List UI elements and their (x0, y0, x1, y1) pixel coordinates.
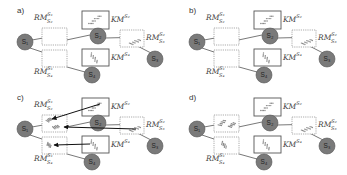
scatter-point (91, 110, 92, 111)
rm-box-s1-s2 (42, 28, 67, 45)
node-label: S₂ (267, 119, 274, 126)
scatter-point (306, 129, 307, 130)
scatter-point (271, 102, 272, 103)
scatter-point (94, 59, 95, 60)
node-label: S₂ (267, 32, 274, 39)
scatter-point (268, 62, 269, 63)
scatter-point (94, 20, 95, 21)
scatter-point (97, 16, 98, 17)
scatter-point (93, 107, 94, 108)
scatter-point (266, 58, 267, 59)
node-label: S₂ (95, 32, 102, 39)
scatter-point (221, 125, 222, 126)
scatter-point (266, 147, 267, 148)
scatter-point (96, 148, 97, 149)
scatter-point (134, 129, 135, 130)
scatter-point (266, 60, 267, 61)
scatter-point (306, 42, 307, 43)
edge-rm-s4 (239, 154, 257, 159)
scatter-point (91, 139, 92, 140)
edge-rm-s4 (67, 67, 85, 72)
scatter-point (100, 15, 101, 16)
km-s2-label: KMS₂ (110, 100, 130, 111)
edge-s1-rm-s2 (204, 125, 214, 127)
scatter-point (91, 52, 92, 53)
scatter-point (132, 131, 133, 132)
scatter-point (260, 23, 261, 24)
node-s4: S₄ (256, 67, 272, 83)
km-box-s2 (82, 11, 109, 29)
scatter-point (91, 142, 92, 143)
panel-label: d) (189, 93, 196, 102)
scatter-point (263, 23, 264, 24)
scatter-point (92, 110, 93, 111)
scatter-point (310, 128, 311, 129)
scatter-point (268, 147, 269, 148)
rm-s1-s4-label: RMS₁S₄ (205, 65, 225, 78)
scatter-point (304, 131, 305, 132)
panel-label: b) (189, 6, 196, 15)
scatter-point (96, 62, 97, 63)
scatter-point (266, 59, 267, 60)
node-s4: S₄ (256, 154, 272, 170)
km-s2-label: KMS₂ (282, 100, 302, 111)
rm-s1-s2-label: RMS₁S₂ (205, 11, 225, 24)
scatter-point (268, 60, 269, 61)
scatter-point (92, 145, 93, 146)
scatter-point (97, 18, 98, 19)
scatter-point (54, 128, 55, 129)
scatter-point (264, 107, 265, 108)
scatter-point (264, 143, 265, 144)
edge-s1-rm-s4 (30, 48, 42, 52)
scatter-point (97, 103, 98, 104)
rm-box-s1-s4 (214, 50, 239, 67)
node-label: S₁ (194, 38, 201, 45)
scatter-point (94, 145, 95, 146)
scatter-point (92, 23, 93, 24)
rm-s1-s4-label: RMS₁S₄ (33, 152, 53, 165)
scatter-point (270, 18, 271, 19)
scatter-point (272, 102, 273, 103)
scatter-point (267, 144, 268, 145)
edge-s1-rm-s4 (202, 135, 214, 139)
scatter-point (93, 20, 94, 21)
node-s3: S₃ (147, 138, 163, 154)
km-box-s2 (82, 98, 109, 116)
scatter-point (140, 40, 141, 41)
scatter-point (91, 53, 92, 54)
scatter-point (266, 18, 267, 19)
scatter-point (138, 41, 139, 42)
scatter-point (267, 105, 268, 106)
scatter-point (224, 147, 225, 148)
scatter-point (55, 127, 56, 128)
panel-c: c)S₁S₂S₃S₄KMS₂KMS₄RMS₁S₂RMS₁S₄RMS₂S₃ (17, 93, 165, 170)
edge-rm-s4 (239, 67, 257, 72)
scatter-point (263, 110, 264, 111)
rm-box-s1-s2 (42, 115, 67, 132)
scatter-point (266, 146, 267, 147)
scatter-point (93, 142, 94, 143)
km-s4-label: KMS₄ (110, 138, 130, 149)
scatter-point (267, 18, 268, 19)
km-s4-label: KMS₄ (110, 51, 130, 62)
scatter-point (93, 55, 94, 56)
scatter-point (134, 42, 135, 43)
km-s4-label: KMS₄ (282, 51, 302, 62)
scatter-point (269, 105, 270, 106)
scatter-point (312, 127, 313, 128)
scatter-point (100, 102, 101, 103)
node-s1: S₁ (17, 34, 33, 50)
scatter-point (268, 149, 269, 150)
node-label: S₁ (22, 38, 29, 45)
scatter-point (225, 120, 226, 121)
node-s2: S₂ (262, 28, 278, 44)
scatter-point (266, 105, 267, 106)
node-label: S₄ (89, 71, 96, 78)
scatter-point (58, 126, 59, 127)
scatter-point (260, 110, 261, 111)
scatter-point (94, 58, 95, 59)
node-label: S₄ (89, 158, 96, 165)
rm-box-s1-s4 (42, 137, 67, 154)
scatter-point (312, 40, 313, 41)
scatter-point (231, 127, 232, 128)
